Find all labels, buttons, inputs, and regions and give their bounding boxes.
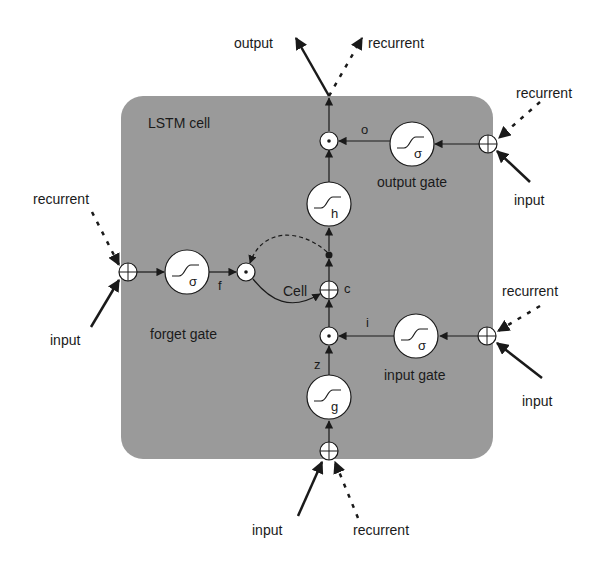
block-input-sum-node <box>320 442 338 460</box>
input-gate-label: input gate <box>384 367 446 383</box>
top-output-label: output <box>234 35 273 51</box>
input-multiply-node <box>320 327 338 345</box>
forget-gate-sigmoid-node: σ <box>165 250 209 294</box>
input-gate-recurrent-arrow <box>498 306 540 331</box>
output-gate-sum-node <box>479 135 497 153</box>
top-output-arrow <box>296 38 329 96</box>
forget-gate-sum-node <box>119 263 137 281</box>
cell-label: Cell <box>283 283 307 299</box>
cell-state-signal-c: c <box>344 281 351 296</box>
output-gate-input-arrow <box>497 151 530 182</box>
forget-gate-input-arrow <box>91 280 119 327</box>
output-gate-signal-o: o <box>361 122 368 137</box>
block-input-signal-z: z <box>314 357 321 372</box>
top-recurrent-arrow <box>329 38 362 96</box>
output-multiply-node <box>320 132 338 150</box>
svg-text:h: h <box>331 206 338 221</box>
output-gate-sigmoid-node: σ <box>390 122 434 166</box>
block-recurrent-label: recurrent <box>353 522 409 538</box>
svg-text:σ: σ <box>414 146 422 161</box>
input-gate-input-arrow <box>497 343 542 378</box>
forget-gate-recurrent-arrow <box>92 212 119 265</box>
cell-branch-point <box>326 252 333 259</box>
output-activation-h-node: h <box>307 182 351 226</box>
input-gate-recurrent-label: recurrent <box>502 283 558 299</box>
svg-text:σ: σ <box>418 338 426 353</box>
forget-gate-recurrent-label: recurrent <box>33 191 89 207</box>
svg-text:σ: σ <box>189 274 197 289</box>
input-gate-input-label: input <box>522 393 552 409</box>
block-input-g-node: g <box>307 375 351 419</box>
output-gate-recurrent-label: recurrent <box>516 85 572 101</box>
output-gate-label: output gate <box>377 174 447 190</box>
block-input-arrow <box>298 462 322 516</box>
top-recurrent-label: recurrent <box>368 35 424 51</box>
input-gate-signal-i: i <box>366 315 369 330</box>
output-gate-recurrent-arrow <box>499 102 540 138</box>
block-input-label: input <box>252 522 282 538</box>
svg-text:g: g <box>331 399 338 414</box>
forget-multiply-node <box>237 263 255 281</box>
block-recurrent-arrow <box>335 462 358 518</box>
lstm-diagram: LSTM cell o f Cell c i z σ output gate <box>0 0 608 575</box>
forget-gate-label: forget gate <box>150 326 217 342</box>
input-gate-sigmoid-node: σ <box>394 314 438 358</box>
forget-gate-input-label: input <box>50 332 80 348</box>
forget-gate-signal-f: f <box>218 278 222 293</box>
cell-sum-node <box>320 281 338 299</box>
lstm-cell-title: LSTM cell <box>148 115 210 131</box>
input-gate-sum-node <box>478 327 496 345</box>
output-gate-input-label: input <box>514 192 544 208</box>
